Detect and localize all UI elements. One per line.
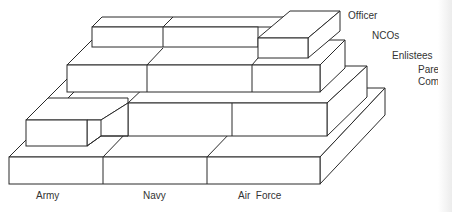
label-parent-command-line2: Com (418, 76, 439, 87)
label-officer: Officer (348, 10, 377, 21)
label-ncos: NCOs (372, 30, 399, 41)
label-navy: Navy (143, 190, 166, 201)
label-air-force: Air Force (238, 190, 281, 201)
page-edge-shadow (438, 0, 452, 212)
label-enlistees: Enlistees (392, 50, 433, 61)
label-army: Army (36, 190, 59, 201)
block-pyramid-diagram: Officer NCOs Enlistees Parer Com Army Na… (0, 0, 452, 212)
